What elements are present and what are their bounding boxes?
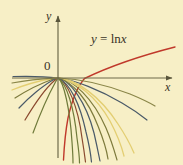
- equation-operator: =: [97, 31, 111, 46]
- x-axis-label: x: [165, 81, 170, 93]
- origin-label: 0: [44, 59, 51, 72]
- equation-function: ln: [111, 31, 121, 46]
- equation-label: y = lnx: [91, 32, 127, 45]
- logarithm-family-figure: y x 0 y = lnx: [0, 0, 183, 165]
- plot-canvas: [0, 0, 183, 165]
- y-axis-label: y: [46, 10, 51, 22]
- equation-argument: x: [121, 31, 127, 46]
